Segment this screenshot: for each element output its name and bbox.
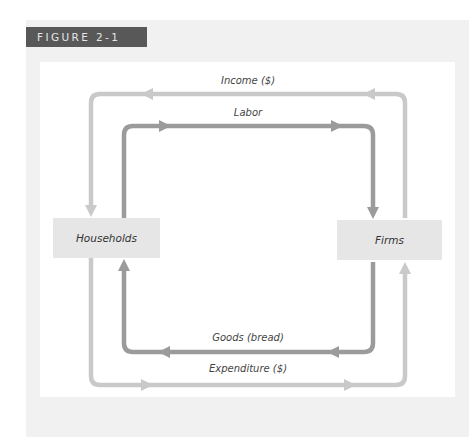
labor-label: Labor bbox=[234, 107, 262, 118]
households-node: Households bbox=[53, 218, 160, 258]
expenditure-arrow-icon bbox=[344, 379, 356, 391]
firms-node: Firms bbox=[337, 220, 442, 260]
inner-real-loop bbox=[124, 126, 373, 352]
labor-flow-path bbox=[124, 126, 373, 218]
income-to-households-arrow-icon bbox=[85, 205, 97, 217]
goods-to-households-arrow-icon bbox=[118, 259, 130, 271]
labor-arrow-icon bbox=[331, 120, 343, 132]
labor-to-firms-arrow-icon bbox=[367, 207, 379, 219]
income-arrow-icon bbox=[141, 88, 153, 100]
labor-arrow-icon bbox=[159, 120, 171, 132]
goods-arrow-icon bbox=[327, 346, 339, 358]
expenditure-arrow-icon bbox=[141, 379, 153, 391]
expenditure-to-firms-arrow-icon bbox=[399, 262, 411, 274]
goods-arrow-icon bbox=[158, 346, 170, 358]
income-label: Income ($) bbox=[221, 75, 275, 86]
income-arrow-icon bbox=[363, 88, 375, 100]
expenditure-label: Expenditure ($) bbox=[209, 363, 287, 374]
goods-label: Goods (bread) bbox=[212, 332, 284, 343]
